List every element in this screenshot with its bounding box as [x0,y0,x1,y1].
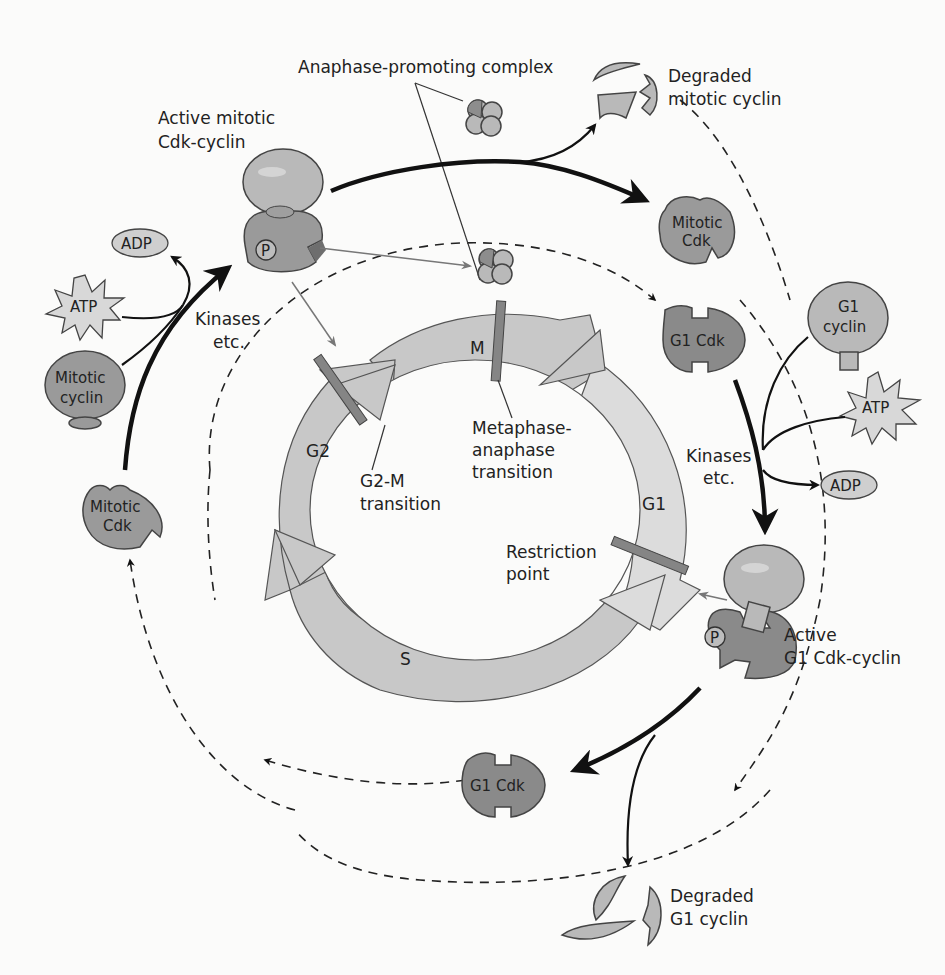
arrow-to-active-mitotic [125,268,228,470]
cell-cycle-diagram: M G1 S G2 Metaphase- anaphase transition… [0,0,945,975]
svg-text:Mitotic: Mitotic [672,214,722,232]
svg-text:G1 Cdk: G1 Cdk [670,332,725,350]
arrow-to-degraded-g1 [627,735,655,865]
metaphase-label-1: Metaphase- [472,418,572,438]
svg-text:P: P [261,242,270,260]
degraded-g1-label-2: G1 cyclin [670,909,748,929]
active-mitotic-label-1: Active mitotic [158,108,275,128]
svg-text:ATP: ATP [70,298,97,316]
degraded-mitotic-cyclin [594,63,657,118]
svg-text:cyclin: cyclin [60,389,103,407]
svg-text:cyclin: cyclin [823,318,866,336]
atp-right: ATP [840,372,920,444]
active-mitotic-cdk-cyclin: P [243,149,326,272]
mitotic-cyclin: Mitotic cyclin [45,351,125,429]
svg-text:Cdk: Cdk [682,232,711,250]
apc-complex-bottom [478,249,513,284]
g1-cdk-bottom: G1 Cdk [462,753,545,817]
kinases-left-label-2: etc. [213,332,245,352]
arrow-to-mitotic-cdk [331,161,645,200]
phase-label-g2: G2 [306,441,330,461]
phase-label-g1: G1 [642,494,666,514]
degraded-g1-cyclin [562,876,661,945]
phase-label-s: S [400,649,411,669]
metaphase-label-3: transition [472,462,553,482]
svg-text:Cdk: Cdk [103,517,132,535]
svg-text:ADP: ADP [830,477,861,495]
adp-left: ADP [112,229,168,257]
degraded-mitotic-label-2: mitotic cyclin [668,89,781,109]
active-g1-label-2: G1 Cdk-cyclin [784,648,901,668]
atp-left: ATP [46,275,124,340]
degraded-g1-label-1: Degraded [670,886,754,906]
svg-text:Mitotic: Mitotic [90,498,140,516]
active-mitotic-label-2: Cdk-cyclin [158,132,246,152]
apc-label: Anaphase-promoting complex [298,57,553,77]
active-g1-label-1: Active [784,625,837,645]
kinases-right-label-1: Kinases [686,446,751,466]
mitotic-cdk-left: Mitotic Cdk [83,486,162,549]
kinases-left-label-1: Kinases [195,309,260,329]
metaphase-label-2: anaphase [472,440,555,460]
restriction-label-1: Restriction [506,542,597,562]
kinases-right-label-2: etc. [703,468,735,488]
adp-right: ADP [821,471,877,499]
svg-text:G1 Cdk: G1 Cdk [470,777,525,795]
g1-cyclin: G1 cyclin [808,282,888,370]
restriction-label-2: point [506,564,550,584]
svg-text:ATP: ATP [862,399,889,417]
svg-text:P: P [710,629,719,647]
g2m-label-1: G2-M [360,471,405,491]
arrow-to-degraded-mitotic [520,125,595,162]
svg-text:Mitotic: Mitotic [55,369,105,387]
mitotic-cdk-right: Mitotic Cdk [659,197,734,264]
phase-label-m: M [470,338,485,358]
degraded-mitotic-label-1: Degraded [668,66,752,86]
g1-cdk-top: G1 Cdk [663,306,745,372]
apc-complex-top [466,100,502,136]
arrow-to-g1-cdk-bottom [575,688,700,770]
svg-text:ADP: ADP [121,235,152,253]
g2m-label-2: transition [360,494,441,514]
svg-text:G1: G1 [838,298,859,316]
